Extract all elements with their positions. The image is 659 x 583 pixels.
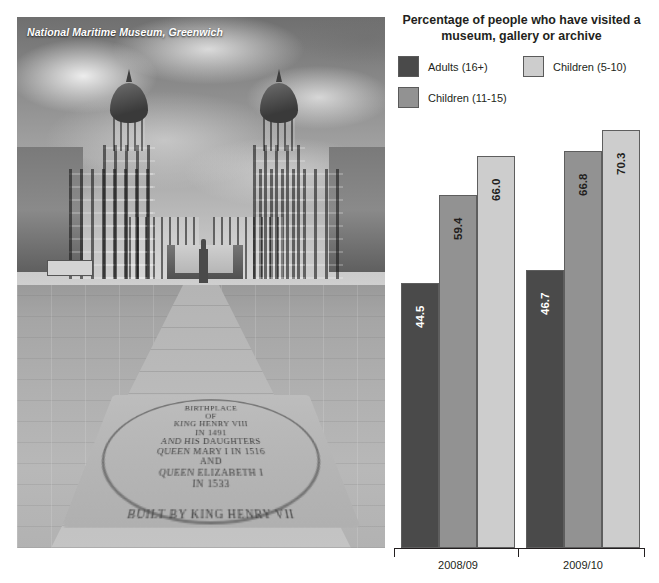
chart-panel: Percentage of people who have visited a … <box>390 0 659 583</box>
bar-2008-09-adults-16: 44.5 <box>401 283 439 548</box>
inscription-text: BIRTHPLACEOFKING HENRY VIIIIN 1491AND HI… <box>76 405 346 490</box>
left-tower-spire <box>126 69 132 82</box>
bar-value-label: 44.5 <box>414 306 426 328</box>
left-tower-base <box>103 145 155 279</box>
bar-value-label: 70.3 <box>615 153 627 175</box>
bar-2009-10-adults-16: 46.7 <box>526 270 564 548</box>
parked-vehicle <box>47 260 93 276</box>
x-axis-tick-left <box>394 548 395 557</box>
right-tower-base <box>253 145 305 279</box>
x-axis-group-label: 2009/10 <box>520 559 646 571</box>
bar-chart-plot: 44.559.466.02008/0946.766.870.32009/10 <box>390 0 659 583</box>
photo-caption: National Maritime Museum, Greenwich <box>27 26 223 38</box>
x-axis-group-label: 2008/09 <box>395 559 521 571</box>
bar-2008-09-children-11-15: 59.4 <box>439 195 477 548</box>
x-axis-tick-right <box>644 548 645 557</box>
bar-value-label: 46.7 <box>539 293 551 315</box>
museum-photo: BIRTHPLACEOFKING HENRY VIIIIN 1491AND HI… <box>17 17 385 548</box>
right-tower-spire <box>276 69 282 82</box>
x-axis-tick-mid <box>518 548 519 557</box>
bar-value-label: 66.0 <box>490 178 502 200</box>
bar-2009-10-children-11-15: 66.8 <box>564 151 602 548</box>
statue-plinth <box>199 249 208 283</box>
bar-2009-10-children-5-10: 70.3 <box>602 130 640 548</box>
x-axis-line <box>394 548 645 549</box>
tudor-palace-inscription-stone: BIRTHPLACEOFKING HENRY VIIIIN 1491AND HI… <box>61 395 361 528</box>
statue-figure <box>201 239 206 251</box>
bar-value-label: 66.8 <box>577 173 589 195</box>
bar-value-label: 59.4 <box>452 217 464 239</box>
bar-2008-09-children-5-10: 66.0 <box>477 156 515 548</box>
inscription-ring-text: BUILT BY KING HENRY VII <box>64 508 359 522</box>
